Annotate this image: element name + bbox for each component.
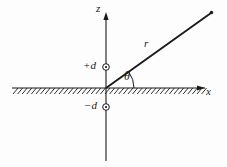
ground-hatch-lines: [13, 88, 207, 94]
charge-marker-plus-d: [103, 64, 110, 71]
marker-label-minus-d: −d: [84, 100, 97, 111]
radial-ray: [106, 11, 213, 88]
x-axis-label: x: [206, 86, 211, 97]
physics-figure: z x r θ +d −d: [0, 0, 227, 167]
z-axis-label: z: [96, 3, 100, 14]
ray-length-label: r: [144, 38, 148, 49]
marker-label-plus-d: +d: [83, 60, 96, 71]
theta-angle-label: θ: [124, 70, 130, 82]
hatched-ground-surface: [12, 88, 207, 94]
charge-marker-minus-d: [103, 104, 110, 111]
figure-canvas: [0, 0, 227, 167]
